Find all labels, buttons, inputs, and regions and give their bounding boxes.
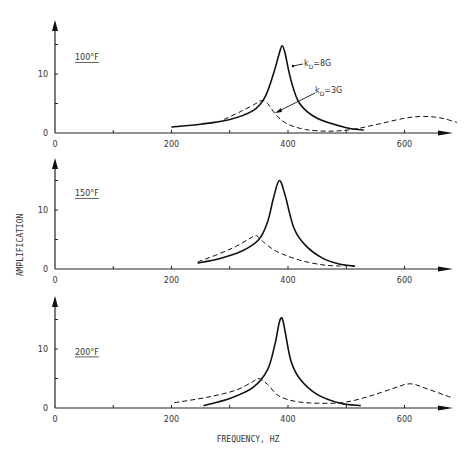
annotation-arrow-8g — [293, 64, 303, 66]
y-tick-label: 10 — [38, 206, 48, 215]
panel-0: 0200400600010100°F — [38, 20, 457, 149]
x-tick-label: 400 — [280, 276, 295, 285]
x-tick-label: 600 — [397, 276, 412, 285]
y-axis-arrow-icon — [52, 158, 58, 169]
x-tick-label: 200 — [164, 140, 179, 149]
y-tick-label: 10 — [38, 345, 48, 354]
arrowhead-icon — [275, 108, 282, 113]
x-tick-label: 200 — [164, 415, 179, 424]
annotation-kd-8g: kD=8G — [304, 59, 331, 70]
arrowhead-icon — [292, 65, 294, 67]
annotations: kD=8GkD=3G — [275, 59, 342, 113]
x-tick-label: 0 — [52, 415, 57, 424]
x-axis-arrow-icon — [438, 131, 453, 136]
x-tick-label: 600 — [397, 415, 412, 424]
y-axis-arrow-icon — [52, 20, 58, 31]
x-tick-label: 0 — [52, 140, 57, 149]
series-kd-3g — [198, 235, 341, 266]
temperature-label: 200°F — [75, 348, 99, 357]
x-axis-title: FREQUENCY, HZ — [217, 435, 280, 444]
series-kd-8g — [204, 318, 361, 406]
x-tick-label: 0 — [52, 276, 57, 285]
x-tick-label: 400 — [280, 140, 295, 149]
panel-2: 0200400600010200°F — [38, 296, 453, 424]
y-tick-label: 0 — [43, 404, 48, 413]
x-tick-label: 200 — [164, 276, 179, 285]
panel-1: 0200400600010150°F — [38, 158, 453, 285]
temperature-label: 150°F — [75, 189, 99, 198]
y-axis-arrow-icon — [52, 296, 58, 307]
amplification-vs-frequency-chart: 0200400600010100°F0200400600010150°F0200… — [0, 0, 467, 453]
x-tick-label: 400 — [280, 415, 295, 424]
x-tick-label: 600 — [397, 140, 412, 149]
x-axis-arrow-icon — [438, 406, 453, 411]
x-axis-arrow-icon — [438, 267, 453, 272]
y-axis-title: AMPLIFICATION — [16, 214, 25, 277]
y-tick-label: 10 — [38, 70, 48, 79]
temperature-label: 100°F — [75, 53, 99, 62]
y-tick-label: 0 — [43, 129, 48, 138]
annotation-kd-3g: kD=3G — [315, 86, 342, 97]
y-tick-label: 0 — [43, 265, 48, 274]
